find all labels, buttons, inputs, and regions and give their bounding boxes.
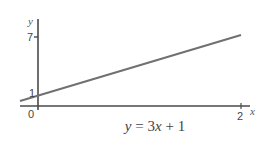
y-tick-label-7: 7 bbox=[27, 31, 33, 43]
caption-eq: = 3 bbox=[132, 118, 155, 134]
caption-var: x bbox=[155, 118, 162, 134]
y-tick-label-1: 1 bbox=[29, 87, 35, 99]
x-tick-label-2: 2 bbox=[237, 110, 243, 122]
caption-rest: + 1 bbox=[162, 118, 185, 134]
x-axis-label: x bbox=[249, 105, 255, 117]
equation-caption: y = 3x + 1 bbox=[100, 118, 210, 135]
caption-lhs: y bbox=[125, 118, 132, 134]
y-axis-label: y bbox=[27, 15, 33, 27]
line-series bbox=[20, 35, 241, 101]
origin-label: 0 bbox=[28, 108, 34, 120]
